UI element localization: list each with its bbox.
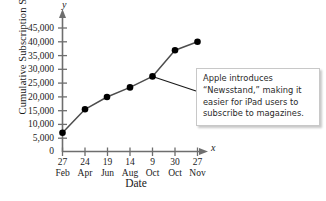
y-tick-label: 0 xyxy=(10,147,54,157)
x-tick-day-label: 27 xyxy=(185,158,211,168)
data-point-markers xyxy=(59,39,201,137)
y-tick-label: 10,000 xyxy=(10,120,54,130)
y-tick-label: 45,000 xyxy=(10,24,54,34)
y-tick-label: 20,000 xyxy=(10,93,54,103)
annotation-leader-line xyxy=(153,76,197,91)
y-tick-label: 30,000 xyxy=(10,65,54,75)
y-tick-label: 40,000 xyxy=(10,38,54,48)
y-tick-label: 25,000 xyxy=(10,79,54,89)
y-tick-label: 35,000 xyxy=(10,52,54,62)
x-tick-month-label: Nov xyxy=(185,169,211,179)
annotation-callout: Apple introduces “Newsstand,” making it … xyxy=(196,68,320,126)
chart-figure: Cumulative Subscription Sales Date y x xyxy=(0,0,326,201)
x-axis xyxy=(63,148,209,155)
y-tick-label: 5,000 xyxy=(10,134,54,144)
y-tick-label: 15,000 xyxy=(10,107,54,117)
